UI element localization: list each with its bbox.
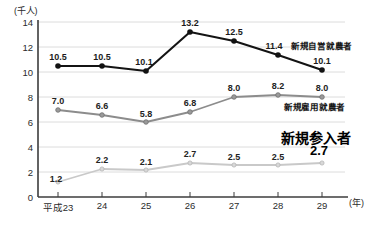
x-tick-label-4: 27 [218, 200, 250, 211]
data-label-new-entrants-4: 2.5 [218, 152, 250, 162]
data-label-new-entrants-2: 2.1 [130, 157, 162, 167]
data-label-self-employed-6: 10.1 [306, 56, 338, 66]
data-label-self-employed-2: 10.1 [128, 57, 160, 67]
data-label-new-entrants-0: 1.2 [40, 174, 72, 184]
data-label-new-entrants-3: 2.7 [174, 149, 206, 159]
x-tick-label-2: 25 [130, 200, 162, 211]
x-tick-label-1: 24 [86, 200, 118, 211]
data-label-self-employed-3: 13.2 [174, 18, 206, 28]
data-label-self-employed-1: 10.5 [86, 52, 118, 62]
data-label-employed-1: 6.6 [86, 101, 118, 111]
data-label-employed-6: 8.0 [306, 83, 338, 93]
x-tick-label-0: 平成23 [34, 200, 82, 214]
data-label-new-entrants-5: 2.5 [262, 152, 294, 162]
x-tick-label-6: 29 [306, 200, 338, 211]
x-tick-label-5: 28 [262, 200, 294, 211]
data-label-employed-4: 8.0 [218, 83, 250, 93]
data-label-self-employed-5: 11.4 [258, 41, 290, 51]
legend-label-new-employed-farmers: 新規雇用就農者 [284, 100, 345, 112]
highlight-value-new-entrants: 2.7 [310, 143, 328, 158]
data-label-employed-2: 5.8 [130, 109, 162, 119]
data-label-employed-3: 6.8 [174, 98, 206, 108]
x-tick-label-3: 26 [174, 200, 206, 211]
line-chart: (千人) (年) 14 12 10 8 6 4 2 0 [0, 0, 386, 227]
data-label-employed-0: 7.0 [42, 96, 74, 106]
data-label-employed-5: 8.2 [262, 81, 294, 91]
data-label-self-employed-0: 10.5 [42, 52, 74, 62]
chart-canvas [0, 0, 386, 227]
data-label-new-entrants-1: 2.2 [86, 155, 118, 165]
data-label-self-employed-4: 12.5 [218, 27, 250, 37]
legend-label-new-self-employed-farmers: 新規自営就農者 [291, 39, 352, 51]
